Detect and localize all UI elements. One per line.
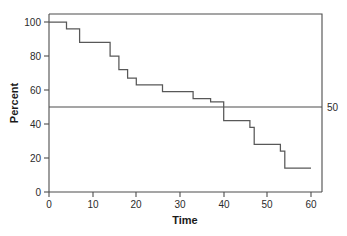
x-axis-title: Time xyxy=(172,214,197,226)
x-axis-tick-labels: 0 10 20 30 40 50 60 xyxy=(46,199,317,210)
median-reference-label: 50 xyxy=(327,102,339,113)
x-tick-label-20: 20 xyxy=(130,199,142,210)
x-tick-label-30: 30 xyxy=(174,199,186,210)
x-tick-label-60: 60 xyxy=(305,199,317,210)
y-tick-label-0: 0 xyxy=(35,187,41,198)
y-axis-title: Percent xyxy=(8,82,20,123)
x-tick-label-0: 0 xyxy=(46,199,52,210)
y-axis-ticks xyxy=(44,22,49,192)
x-tick-label-50: 50 xyxy=(261,199,273,210)
y-tick-label-80: 80 xyxy=(30,51,42,62)
survival-step-curve xyxy=(49,22,311,168)
y-axis-tick-labels: 100 80 60 40 20 0 xyxy=(24,17,41,198)
y-tick-label-60: 60 xyxy=(30,85,42,96)
frame-top-right xyxy=(49,14,322,192)
x-tick-label-40: 40 xyxy=(218,199,230,210)
plot-frame xyxy=(49,14,322,192)
y-tick-label-100: 100 xyxy=(24,17,41,28)
survival-chart-svg: 100 80 60 40 20 0 0 10 20 30 40 50 60 xyxy=(0,0,347,236)
y-tick-label-20: 20 xyxy=(30,153,42,164)
x-axis-ticks xyxy=(49,192,311,197)
x-tick-label-10: 10 xyxy=(87,199,99,210)
chart-figure: 100 80 60 40 20 0 0 10 20 30 40 50 60 xyxy=(0,0,347,236)
y-tick-label-40: 40 xyxy=(30,119,42,130)
figure-caption-strip xyxy=(0,227,347,236)
